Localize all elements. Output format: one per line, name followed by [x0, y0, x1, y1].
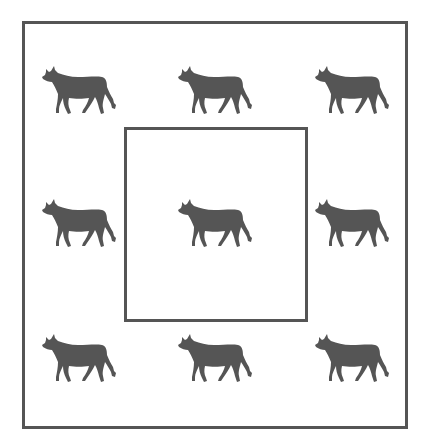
bull-icon [40, 331, 118, 385]
bull-icon [176, 63, 254, 117]
bull-icon [40, 63, 118, 117]
bull-icon [313, 63, 391, 117]
bull-icon [176, 331, 254, 385]
bull-icon [176, 196, 254, 250]
bull-icon [40, 196, 118, 250]
bull-icon [313, 331, 391, 385]
bull-icon [313, 196, 391, 250]
